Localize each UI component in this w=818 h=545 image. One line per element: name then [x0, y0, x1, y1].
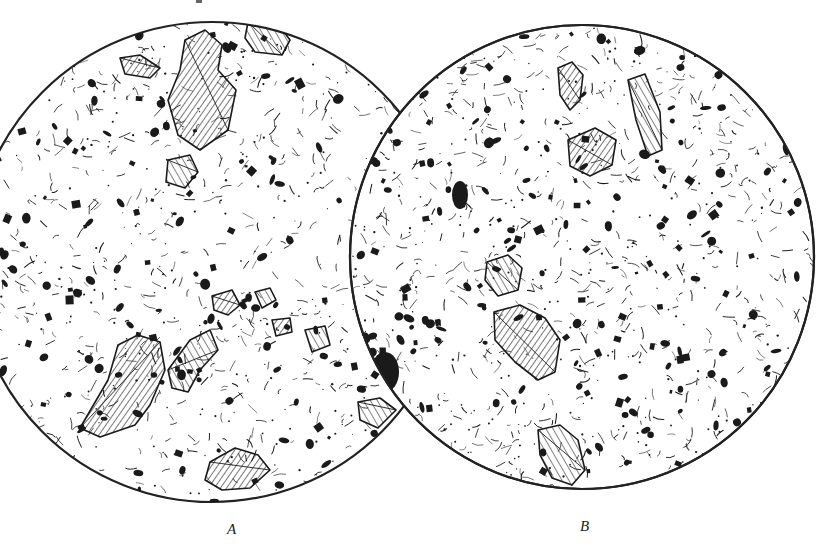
blob-center-blob	[452, 181, 468, 209]
panel-b	[350, 25, 814, 497]
micrograph-figure	[0, 0, 818, 545]
panel-a-label: A	[227, 521, 236, 538]
panel-b-label: B	[580, 518, 589, 535]
crystal-right-small	[272, 318, 292, 336]
